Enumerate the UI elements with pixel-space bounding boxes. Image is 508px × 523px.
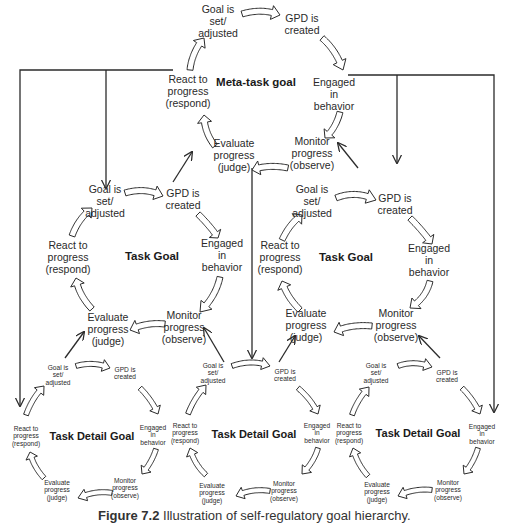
feedback-detail-left-to-task-left [65, 332, 84, 358]
detail-left-gpd-created-label: GPD is created [114, 366, 136, 381]
task-left-gpd-to-engaged-arrow-icon [196, 212, 221, 238]
task-left-engaged-to-monitor-arrow-icon [200, 276, 223, 312]
detail-left-evaluate-to-react-arrow-icon [26, 452, 46, 480]
detail-right-goal-set-label: Goal is set/ adjusted [364, 362, 389, 384]
detail-center-monitor-label: Monitor progress (observe) [270, 480, 298, 502]
detail-right-react-label: React to progress (respond) [335, 422, 363, 444]
detail-right-monitor-label: Monitor progress (observe) [434, 479, 462, 501]
detail-center-react-label: React to progress (respond) [171, 422, 199, 444]
detail-left-monitor-label: Monitor progress (observe) [111, 477, 139, 499]
detail-left-react-label: React to progress (respond) [12, 425, 40, 447]
task-goal-right-title: Task Goal [319, 251, 373, 263]
detail-right-engaged-label: Engaged in behavior [469, 423, 495, 445]
detail-center-goal-set-label: Goal is set/ adjusted [201, 362, 226, 384]
feedback-detail-center-to-task-left [204, 328, 224, 362]
task-left-engaged-label: Engaged in behavior [201, 238, 243, 273]
detail-left-title: Task Detail Goal [50, 430, 135, 442]
figure-caption-number: Figure 7.2 [98, 508, 159, 523]
detail-center-react-to-goal-arrow-icon [186, 385, 206, 415]
detail-center-goal-to-gpd-arrow-icon [231, 358, 270, 370]
task-right-react-label: React to progress (respond) [258, 240, 303, 275]
detail-right-evaluate-label: Evaluate progress (judge) [364, 481, 390, 503]
feedback-detail-right-to-task-right [419, 336, 440, 358]
detail-left-gpd-to-engaged-arrow-icon [138, 386, 160, 414]
detail-right-title: Task Detail Goal [376, 427, 461, 439]
detail-center-engaged-to-monitor-arrow-icon [302, 447, 320, 474]
task-right-goal-to-gpd-arrow-icon [335, 190, 376, 203]
detail-right-engaged-to-monitor-arrow-icon [463, 447, 480, 474]
meta-monitor-to-evaluate-arrow-icon [252, 161, 289, 175]
meta-evaluate-label: Evaluate progress (judge) [214, 138, 255, 173]
task-goal-left-title: Task Goal [125, 250, 179, 262]
detail-center-evaluate-label: Evaluate progress (judge) [199, 482, 225, 504]
figure-caption: Figure 7.2 Illustration of self-regulato… [98, 508, 411, 523]
feedback-task-left-to-meta [173, 152, 192, 182]
detail-center-gpd-to-engaged-arrow-icon [296, 386, 320, 414]
task-right-monitor-label: Monitor progress (observe) [374, 308, 418, 343]
task-left-monitor-label: Monitor progress (observe) [162, 310, 206, 345]
detail-right-goal-to-gpd-arrow-icon [397, 359, 432, 371]
task-left-gpd-created-label: GPD is created [165, 188, 200, 212]
detail-center-gpd-created-label: GPD is created [274, 368, 296, 383]
detail-center-evaluate-to-react-arrow-icon [187, 448, 208, 477]
detail-center-title: Task Detail Goal [212, 428, 297, 440]
detail-center-engaged-label: Engaged in behavior [304, 422, 330, 444]
task-left-goal-set-label: Goal is set/ adjusted [85, 184, 125, 219]
task-right-gpd-to-engaged-arrow-icon [408, 216, 434, 244]
detail-right-gpd-to-engaged-arrow-icon [460, 386, 482, 414]
detail-left-goal-set-label: Goal is set/ adjusted [46, 364, 71, 386]
feedback-task-right-to-meta [338, 143, 358, 168]
figure-caption-text: Illustration of self-regulatory goal hie… [163, 508, 411, 523]
detail-left-engaged-label: Engaged in behavior [140, 424, 166, 446]
detail-right-evaluate-to-react-arrow-icon [350, 448, 370, 478]
detail-right-react-to-goal-arrow-icon [350, 387, 369, 416]
task-right-goal-set-label: Goal is set/ adjusted [292, 184, 332, 219]
task-right-gpd-created-label: GPD is created [377, 193, 412, 217]
task-left-monitor-to-evaluate-arrow-icon [130, 320, 165, 333]
task-left-evaluate-label: Evaluate progress (judge) [88, 312, 129, 347]
task-right-engaged-label: Engaged in behavior [408, 243, 450, 278]
task-left-react-label: React to progress (respond) [46, 240, 91, 275]
meta-goal-set-label: Goal is set/ adjusted [198, 4, 238, 39]
meta-gpd-to-engaged-arrow-icon [320, 36, 346, 70]
task-right-monitor-to-evaluate-arrow-icon [334, 322, 372, 335]
meta-engaged-label: Engaged in behavior [313, 77, 355, 112]
meta-engaged-to-monitor-arrow-icon [324, 111, 343, 138]
detail-left-evaluate-label: Evaluate progress (judge) [44, 479, 70, 501]
detail-left-engaged-to-monitor-arrow-icon [141, 448, 158, 474]
task-right-evaluate-label: Evaluate progress (judge) [286, 308, 327, 343]
detail-left-goal-to-gpd-arrow-icon [75, 360, 110, 372]
detail-left-react-to-goal-arrow-icon [24, 386, 44, 416]
meta-goal-to-gpd-arrow-icon [241, 6, 280, 20]
connector-meta-to-left [20, 70, 173, 406]
meta-gpd-created-label: GPD is created [284, 13, 319, 37]
meta-task-goal-title: Meta-task goal [216, 76, 296, 88]
detail-right-gpd-created-label: GPD is created [436, 369, 458, 384]
task-left-goal-to-gpd-arrow-icon [124, 186, 163, 199]
task-left-evaluate-to-react-arrow-icon [71, 278, 95, 311]
meta-react-label: React to progress (respond) [166, 74, 211, 109]
detail-center-monitor-to-evaluate-arrow-icon [236, 487, 270, 498]
detail-right-monitor-to-evaluate-arrow-icon [398, 487, 432, 499]
detail-left-monitor-to-evaluate-arrow-icon [78, 489, 113, 500]
task-right-engaged-to-monitor-arrow-icon [410, 280, 433, 308]
meta-react-to-goal-arrow-icon [187, 38, 205, 70]
meta-monitor-label: Monitor progress (observe) [290, 136, 334, 171]
